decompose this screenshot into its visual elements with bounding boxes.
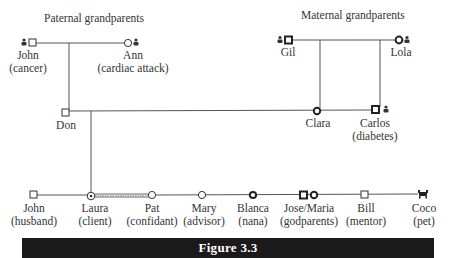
bill-name: Bill [346,202,386,215]
john-husband-square-icon [30,191,37,198]
carlos-deceased-icon [384,105,389,112]
john-husband-note: (husband) [11,215,57,228]
john-husband-label: John (husband) [11,202,57,228]
ann-deceased-icon [134,38,139,45]
pat-name: Pat [126,202,177,215]
john-gp-label: John (cancer) [9,49,47,75]
coco-note: (pet) [412,215,436,228]
gil-label: Gil [281,46,296,59]
coco-pet-animal-icon [418,190,428,199]
mary-note: (advisor) [183,215,225,228]
lola-circle-icon [396,37,403,44]
ann-circle-icon [124,39,131,46]
blanca-circle-icon [250,192,256,198]
mary-name: Mary [183,202,225,215]
laura-name: Laura [78,202,111,215]
laura-pat-bond-line [95,194,149,197]
ann-note: (cardiac attack) [97,62,168,75]
clara-label: Clara [306,117,331,130]
coco-name: Coco [412,202,436,215]
bill-label: Bill (mentor) [346,202,386,228]
john-gp-deceased-icon [22,38,27,45]
carlos-name: Carlos [352,117,397,130]
gil-name: Gil [281,46,296,59]
gil-square-icon [285,37,292,44]
lola-name: Lola [390,46,411,59]
bill-note: (mentor) [346,215,386,228]
bill-square-icon [361,191,368,198]
gil-deceased-icon [278,36,283,43]
john-gp-note: (cancer) [9,62,47,75]
pat-note: (confidant) [126,215,177,228]
carlos-note: (diabetes) [352,130,397,143]
josemaria-label: Jose/Maria (godparents) [280,202,338,228]
carlos-square-icon [372,106,379,113]
coco-label: Coco (pet) [412,202,436,228]
ann-label: Ann (cardiac attack) [97,49,168,75]
blanca-note: (nana) [237,215,269,228]
ann-name: Ann [97,49,168,62]
pat-label: Pat (confidant) [126,202,177,228]
don-square-icon [62,109,69,116]
john-gp-name: John [9,49,47,62]
clara-circle-icon [314,108,320,114]
maternal-grandparents-heading: Maternal grandparents [301,9,405,21]
josemaria-note: (godparents) [280,215,338,228]
laura-note: (client) [78,215,111,228]
don-name: Don [56,119,76,132]
john-husband-name: John [11,202,57,215]
pat-circle-icon [148,191,155,198]
network-line-right [155,194,418,195]
mary-circle-icon [198,191,205,198]
lola-label: Lola [390,46,411,59]
blanca-name: Blanca [237,202,269,215]
maria-circle-icon [311,192,317,198]
john-gp-square-icon [29,39,36,46]
parents-marriage-line [68,110,372,111]
carlos-label: Carlos (diabetes) [352,117,397,143]
blanca-label: Blanca (nana) [237,202,269,228]
don-label: Don [56,119,76,132]
clara-name: Clara [306,117,331,130]
josemaria-name: Jose/Maria [280,202,338,215]
laura-label: Laura (client) [78,202,111,228]
paternal-grandparents-heading: Paternal grandparents [44,12,144,24]
laura-client-dot-icon [90,195,93,198]
lola-deceased-icon [405,36,410,43]
figure-title: Figure 3.3 [198,240,257,256]
mary-label: Mary (advisor) [183,202,225,228]
jose-square-icon [300,192,307,199]
figure-caption-bar: Figure 3.3 [22,238,434,258]
